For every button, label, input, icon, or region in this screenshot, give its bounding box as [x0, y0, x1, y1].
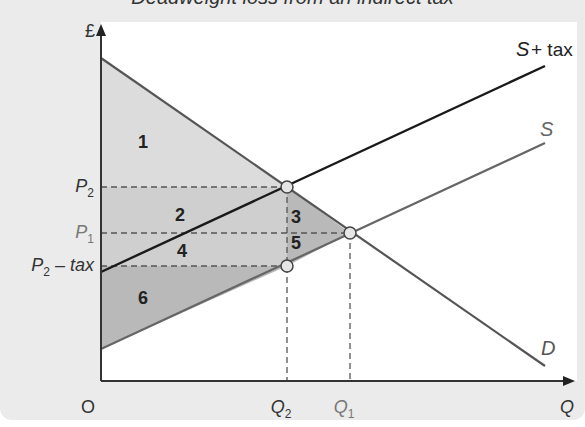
point-original-equilibrium	[344, 227, 356, 239]
chart-svg: £OQP2P1P2 – taxQ2Q1S+ taxSD123456	[0, 0, 585, 427]
point-tax-equilibrium-producer	[281, 260, 293, 272]
region-label-2: 2	[175, 205, 185, 225]
region-label-4: 4	[177, 241, 187, 261]
y-tick-0: P2	[75, 176, 94, 200]
region-4	[101, 233, 287, 266]
region-label-3: 3	[291, 207, 301, 227]
x-tick-0: Q2	[271, 397, 292, 421]
demand-label: D	[541, 337, 555, 359]
region-label-5: 5	[291, 233, 301, 253]
supply-tax-label-tax: + tax	[531, 39, 573, 60]
x-tick-1: Q1	[334, 397, 355, 421]
region-label-6: 6	[138, 288, 148, 308]
y-axis-label: £	[85, 21, 95, 41]
region-label-1: 1	[138, 132, 148, 152]
origin-label: O	[81, 397, 95, 417]
supply-tax-label-s: S	[516, 38, 530, 60]
point-tax-equilibrium-consumer	[281, 181, 293, 193]
supply-label: S	[540, 118, 554, 140]
y-tick-2: P2 – tax	[31, 255, 95, 279]
region-2	[101, 187, 287, 233]
y-tick-1: P1	[75, 222, 94, 246]
x-axis-label: Q	[560, 397, 574, 417]
